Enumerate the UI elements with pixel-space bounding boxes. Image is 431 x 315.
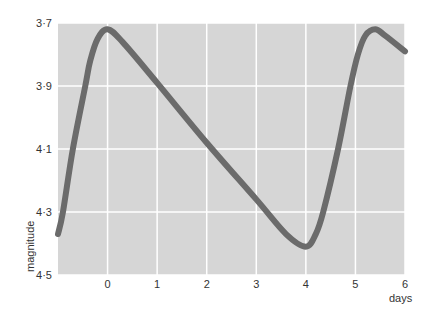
x-tick-label: 0: [105, 278, 111, 290]
y-axis-label: magnitude: [24, 221, 36, 272]
y-tick-label: 3·7: [36, 17, 52, 29]
y-tick-label: 4·1: [36, 143, 52, 155]
x-tick-label: 2: [204, 278, 210, 290]
x-tick-label: 4: [303, 278, 309, 290]
x-tick-label: 3: [253, 278, 259, 290]
y-tick-label: 4·5: [36, 269, 52, 281]
y-axis-ticks: 3·73·94·14·34·5: [36, 17, 52, 281]
y-tick-label: 4·3: [36, 206, 52, 218]
light-curve-chart: 3·73·94·14·34·5 0123456 magnitude days: [0, 0, 431, 315]
x-axis-label: days: [389, 292, 413, 304]
y-tick-label: 3·9: [36, 80, 52, 92]
x-axis-ticks: 0123456: [105, 278, 409, 290]
x-tick-label: 1: [154, 278, 160, 290]
x-tick-label: 6: [402, 278, 408, 290]
x-tick-label: 5: [352, 278, 358, 290]
